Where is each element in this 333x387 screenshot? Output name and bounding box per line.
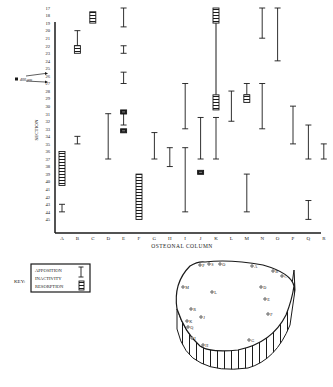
legend-resorption-label: RESORPTION xyxy=(35,284,64,289)
map-point-marker-icon xyxy=(202,344,204,346)
map-point-label: H xyxy=(205,343,208,348)
y-tick-labels: 1718192021222324252627282930313233343536… xyxy=(45,6,50,222)
apposition-bar xyxy=(182,148,188,212)
column-p xyxy=(290,106,296,144)
y-tick-label: 34 xyxy=(45,134,50,139)
apposition-bar xyxy=(321,144,327,159)
resorption-box xyxy=(59,151,65,185)
column-b xyxy=(74,31,80,144)
column-r xyxy=(321,144,327,159)
map-point-marker-icon xyxy=(267,313,269,315)
legend: KEY: APPOSITION INACTIVITY RESORPTION xyxy=(14,264,90,292)
map-point-label: D xyxy=(263,285,266,290)
apposition-bar xyxy=(121,114,127,125)
y-tick-label: 23 xyxy=(45,51,50,56)
y-tick-label: 35 xyxy=(45,142,50,147)
map-point-marker-icon xyxy=(211,291,213,293)
map-point-marker-icon xyxy=(200,316,202,318)
column-i xyxy=(182,84,188,212)
x-tick-label: Q xyxy=(307,236,311,241)
y-tick-label: 37 xyxy=(45,157,50,162)
column-f xyxy=(136,174,142,219)
map-point-marker-icon xyxy=(264,298,266,300)
map-point-marker-icon xyxy=(187,326,189,328)
x-tick-label: A xyxy=(60,236,64,241)
y-tick-label: 21 xyxy=(45,36,50,41)
apposition-bar xyxy=(244,174,250,212)
y-tick-label: 26 xyxy=(45,74,50,79)
x-tick-label: O xyxy=(276,236,280,241)
y-tick-label: 18 xyxy=(45,13,50,18)
resorption-box xyxy=(136,174,142,219)
map-point-marker-icon xyxy=(199,264,201,266)
map-point-marker-icon xyxy=(248,339,250,341)
y-tick-label: 29 xyxy=(45,96,50,101)
y-tick-label: 19 xyxy=(45,21,50,26)
map-point-marker-icon xyxy=(281,275,283,277)
y-tick-label: 30 xyxy=(45,104,50,109)
x-tick-label: J xyxy=(200,236,202,241)
map-point-marker-icon xyxy=(219,263,221,265)
apposition-bar xyxy=(74,31,80,46)
apposition-bar xyxy=(305,201,311,220)
apposition-bar xyxy=(198,117,204,159)
y-tick-label: 20 xyxy=(45,28,50,33)
apposition-bar xyxy=(244,84,250,95)
apposition-bar xyxy=(228,91,234,121)
y-tick-label: 31 xyxy=(45,112,50,117)
apposition-bar xyxy=(290,106,296,144)
map-point-label: L xyxy=(214,290,217,295)
apposition-bar xyxy=(121,46,127,54)
x-tick-labels: ABCDEFGHIJKLMNOPQR xyxy=(60,236,326,241)
y-tick-label: 17 xyxy=(45,6,50,11)
column-k xyxy=(213,8,219,159)
column-q xyxy=(305,125,311,219)
y-tick-label: 33 xyxy=(45,127,50,132)
resorption-box xyxy=(90,12,96,23)
x-tick-label: I xyxy=(184,236,186,241)
map-point-label: C xyxy=(284,274,287,279)
column-o xyxy=(275,8,281,61)
apposition-symbol-icon xyxy=(79,267,84,277)
x-tick-label: P xyxy=(292,236,295,241)
x-tick-label: R xyxy=(322,236,326,241)
resorption-box xyxy=(74,46,80,54)
y-axis-label: SECTION xyxy=(34,119,39,141)
y-tick-label: 39 xyxy=(45,172,50,177)
apposition-bar xyxy=(105,114,111,159)
x-tick-label: K xyxy=(214,236,218,241)
map-point-marker-icon xyxy=(186,320,188,322)
apposition-bar xyxy=(167,148,173,167)
map-point-marker-icon xyxy=(208,263,210,265)
resorption-box xyxy=(244,95,250,103)
osteon-activity-figure: 1718192021222324252627282930313233343536… xyxy=(0,0,333,387)
chart-axes xyxy=(55,22,321,233)
y-tick-label: 38 xyxy=(45,164,50,169)
column-c xyxy=(90,12,96,23)
column-l xyxy=(228,91,234,121)
legend-apposition-label: APPOSITION xyxy=(35,268,62,273)
apposition-bar xyxy=(151,133,157,159)
map-point-label: O xyxy=(222,262,225,267)
resorption-symbol-icon xyxy=(79,281,84,290)
y-tick-label: 24 xyxy=(45,59,50,64)
y-tick-label: 42 xyxy=(45,195,50,200)
legend-title: KEY: xyxy=(14,279,25,284)
legend-inactivity-label: INACTIVITY xyxy=(35,276,62,281)
y-tick-label: 44 xyxy=(45,210,50,215)
x-axis-label: OSTEONAL COLUMN xyxy=(151,243,213,249)
y-tick-label: 41 xyxy=(45,187,50,192)
data-series xyxy=(59,8,327,219)
map-point-marker-icon xyxy=(260,286,262,288)
apposition-bar xyxy=(182,84,188,129)
column-d xyxy=(105,114,111,159)
y-tick-label: 22 xyxy=(45,44,50,49)
map-point-marker-icon xyxy=(182,286,184,288)
apposition-bar xyxy=(259,84,265,129)
apposition-bar xyxy=(305,125,311,159)
map-point-label: E xyxy=(267,297,270,302)
resorption-box xyxy=(213,95,219,110)
x-tick-label: F xyxy=(138,236,141,241)
y-tick-label: 25 xyxy=(45,66,50,71)
y-tick-label: 36 xyxy=(45,149,50,154)
